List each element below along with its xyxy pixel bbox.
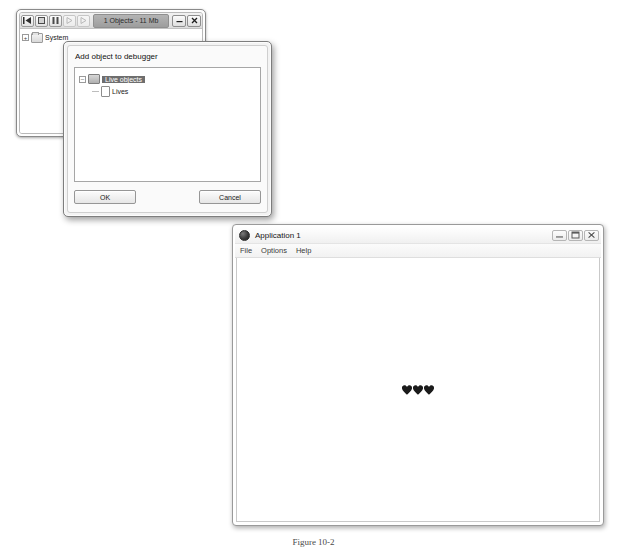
- ok-button[interactable]: OK: [74, 190, 136, 204]
- tree-item-live-objects[interactable]: – Live objects: [79, 73, 256, 85]
- menu-item-file[interactable]: File: [240, 246, 252, 255]
- tree-item-label: Lives: [112, 88, 128, 95]
- debugger-close-button[interactable]: [187, 15, 201, 27]
- application-titlebar[interactable]: Application 1: [235, 227, 601, 243]
- play-button[interactable]: [77, 15, 90, 27]
- object-tree[interactable]: – Live objects Lives: [74, 67, 261, 182]
- application-canvas[interactable]: [236, 258, 600, 522]
- document-icon: [101, 86, 110, 97]
- add-object-dialog[interactable]: Add object to debugger – Live objects Li…: [63, 41, 272, 217]
- minimize-icon[interactable]: [552, 230, 567, 241]
- tree-line: [92, 91, 99, 92]
- tree-item-label: System: [45, 34, 68, 41]
- pause-button[interactable]: [49, 15, 62, 27]
- debugger-title: 1 Objects - 11 Mb: [93, 14, 169, 28]
- figure-caption: Figure 10-2: [0, 538, 627, 547]
- window-controls: [552, 230, 599, 241]
- menu-item-options[interactable]: Options: [261, 246, 287, 255]
- stop-button[interactable]: [35, 15, 48, 27]
- application-icon: [239, 230, 250, 241]
- skip-back-button[interactable]: [21, 15, 34, 27]
- close-icon[interactable]: [584, 230, 599, 241]
- application-window[interactable]: Application 1 File Options Help: [232, 224, 604, 526]
- heart-icon: [413, 385, 424, 395]
- dialog-button-row: OK Cancel: [74, 188, 261, 206]
- collapse-icon[interactable]: –: [79, 76, 86, 83]
- heart-icon: [402, 385, 413, 395]
- menu-item-help[interactable]: Help: [296, 246, 311, 255]
- object-icon: [88, 74, 100, 84]
- debugger-minimize-button[interactable]: [172, 15, 186, 27]
- tree-item-label: Live objects: [102, 76, 145, 83]
- dialog-title: Add object to debugger: [75, 52, 261, 61]
- add-object-dialog-inner: Add object to debugger – Live objects Li…: [67, 45, 268, 213]
- debugger-titlebar[interactable]: 1 Objects - 11 Mb: [20, 13, 202, 29]
- step-forward-button[interactable]: [63, 15, 76, 27]
- cancel-button[interactable]: Cancel: [199, 190, 261, 204]
- heart-icon: [424, 385, 435, 395]
- lives-display: [402, 385, 435, 395]
- figure-caption-text: Figure 10-2: [292, 538, 334, 547]
- folder-icon: [31, 33, 43, 43]
- application-title: Application 1: [255, 231, 552, 240]
- maximize-icon[interactable]: [568, 230, 583, 241]
- expand-icon[interactable]: +: [22, 34, 29, 41]
- application-menubar[interactable]: File Options Help: [235, 243, 601, 258]
- tree-item-lives[interactable]: Lives: [79, 85, 256, 97]
